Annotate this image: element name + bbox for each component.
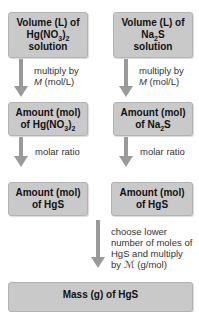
- step-multiply-molarity: multiply by M (mol/L): [139, 65, 184, 87]
- box-text: solution: [16, 41, 79, 53]
- box-amount-hgno32: Amount (mol) of Hg(NO3)2: [8, 102, 88, 136]
- box-text: Hg(NO3)2: [16, 29, 79, 41]
- box-text: Amount (mol): [16, 107, 81, 119]
- box-text: solution: [121, 41, 184, 53]
- box-text: of HgS: [16, 199, 81, 211]
- box-text: of Na2S: [121, 119, 186, 131]
- box-text: Volume (L) of: [121, 17, 184, 29]
- box-text: of Hg(NO3)2: [16, 119, 81, 131]
- arrow-down-icon: [119, 59, 133, 97]
- step-molar-ratio: molar ratio: [140, 146, 185, 157]
- box-text: Na2S: [121, 29, 184, 41]
- box-text: Amount (mol): [120, 187, 185, 199]
- arrow-down-icon: [14, 137, 28, 167]
- box-amount-hgs-right: Amount (mol) of HgS: [111, 182, 193, 216]
- box-text: of HgS: [120, 199, 185, 211]
- step-choose-lower: choose lower number of moles of HgS and …: [111, 226, 192, 270]
- step-molar-ratio: molar ratio: [35, 146, 80, 157]
- box-text: Amount (mol): [16, 187, 81, 199]
- arrow-down-icon: [91, 220, 105, 270]
- step-multiply-molarity: multiply by M (mol/L): [34, 65, 79, 87]
- box-amount-na2s: Amount (mol) of Na2S: [113, 102, 193, 136]
- box-volume-hgno32: Volume (L) of Hg(NO3)2 solution: [8, 12, 88, 58]
- box-mass-hgs: Mass (g) of HgS: [8, 282, 193, 312]
- box-text: Amount (mol): [121, 107, 186, 119]
- box-text: Mass (g) of HgS: [63, 289, 139, 301]
- box-amount-hgs-left: Amount (mol) of HgS: [8, 182, 88, 216]
- box-volume-na2s: Volume (L) of Na2S solution: [113, 12, 193, 58]
- box-text: Volume (L) of: [16, 17, 79, 29]
- arrow-down-icon: [119, 137, 133, 167]
- arrow-down-icon: [14, 59, 28, 97]
